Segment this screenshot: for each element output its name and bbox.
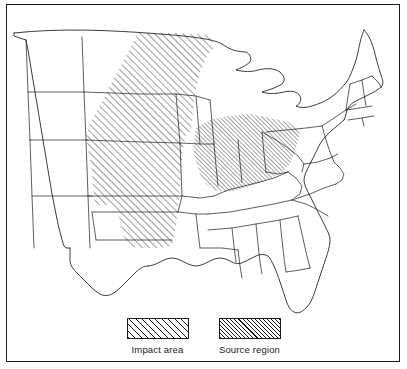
- border-nc-sc: [292, 200, 328, 216]
- border-nh-me: [372, 76, 382, 88]
- border-md-de: [334, 162, 344, 184]
- border-ar-la: [200, 248, 238, 250]
- border-ms-west: [232, 228, 236, 262]
- western-crop-edge: [14, 33, 70, 248]
- border-vt-nh-north: [350, 76, 372, 84]
- border-pa-nj: [322, 126, 334, 162]
- border-tx-panhandle-west: [92, 212, 96, 240]
- border-ga-fl: [286, 268, 310, 272]
- us-map: [0, 0, 407, 369]
- map-figure: Impact area Source region: [0, 0, 407, 369]
- border-ct-ri: [362, 118, 364, 126]
- border-mo-ar: [178, 212, 208, 214]
- border-ky-tn: [208, 200, 292, 214]
- great-lakes-border: [222, 30, 364, 108]
- border-vt-nh: [362, 80, 366, 106]
- border-ny-east: [322, 104, 356, 126]
- gulf-coast: [148, 255, 274, 267]
- border-mo-north: [182, 196, 214, 198]
- border-tn-south: [208, 216, 298, 230]
- border-colorado-west: [30, 140, 34, 248]
- border-nc-va: [292, 184, 336, 200]
- border-ga-sc: [298, 216, 310, 268]
- border-al-ga: [280, 220, 286, 272]
- border-ar-west: [196, 214, 200, 248]
- border-ma-ct-ri: [348, 116, 374, 120]
- texas-mexico-border: [70, 248, 148, 296]
- border-montana-west: [26, 40, 30, 140]
- border-ms-al: [256, 224, 262, 274]
- border-la-ms: [238, 250, 242, 278]
- maine-coast: [344, 30, 383, 120]
- border-wv-va: [288, 172, 302, 198]
